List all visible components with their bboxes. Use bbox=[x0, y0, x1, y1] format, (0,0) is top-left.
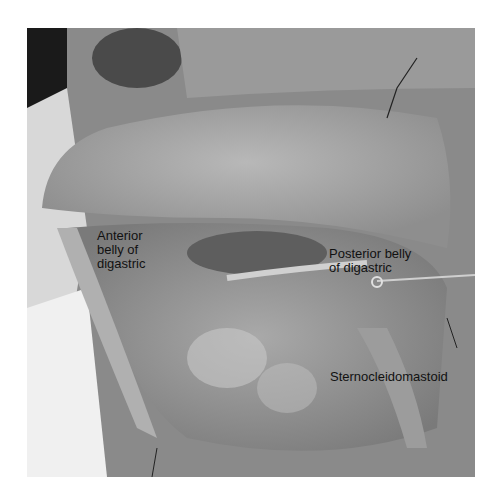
label-anterior-belly-digastric: Anterior belly of digastric bbox=[97, 229, 145, 271]
label-posterior-belly-digastric: Posterior belly of digastric bbox=[329, 247, 411, 275]
label-sternocleidomastoid: Sternocleidomastoid bbox=[330, 370, 448, 384]
surgical-photo: Anterior belly of digastric Posterior be… bbox=[27, 28, 475, 477]
